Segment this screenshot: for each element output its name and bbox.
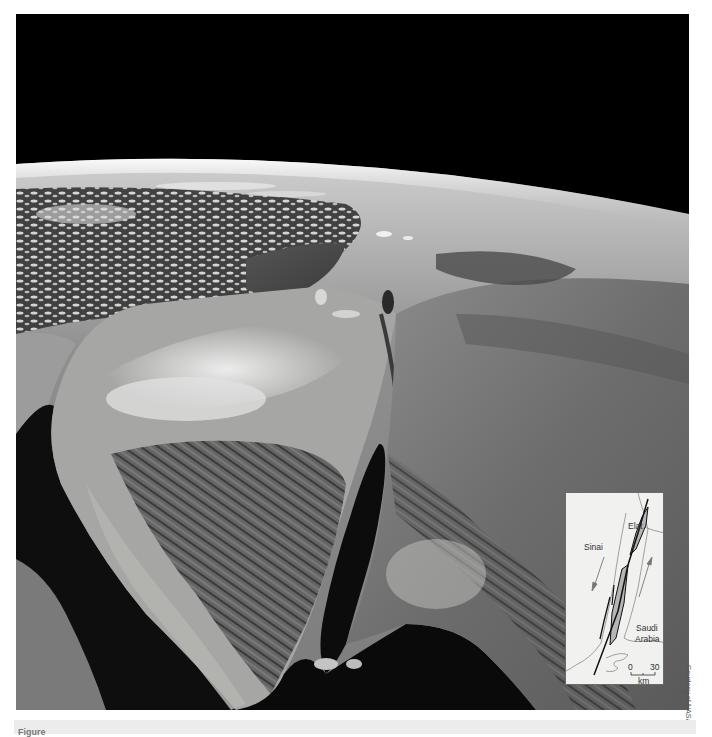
- label-elat: Elat: [628, 521, 643, 531]
- dead-sea: [382, 290, 394, 314]
- figure-caption-label: Figure: [18, 727, 46, 737]
- sinai-plateau-bright: [106, 377, 266, 421]
- label-saudi: Saudi: [636, 623, 658, 633]
- tiran-island: [314, 658, 338, 670]
- scale-label-start: 0: [628, 662, 633, 672]
- inset-map: Elat Sinai Saudi Arabia 0 30 km: [565, 492, 664, 685]
- motion-arrow-south: [592, 557, 604, 591]
- label-sinai: Sinai: [584, 542, 603, 552]
- scale-bar: [631, 672, 655, 675]
- scale-label-unit: km: [638, 676, 649, 685]
- dead-sea-transform-fault-map: [566, 493, 664, 685]
- caption-strip: Figure: [14, 720, 696, 734]
- scale-label-end: 30: [650, 662, 659, 672]
- photo-credit: Courtesy of NASA: [685, 665, 692, 725]
- islands-outline: [606, 654, 628, 672]
- label-arabia: Arabia: [635, 634, 660, 644]
- motion-arrow-north: [639, 557, 652, 597]
- border-line: [644, 527, 664, 533]
